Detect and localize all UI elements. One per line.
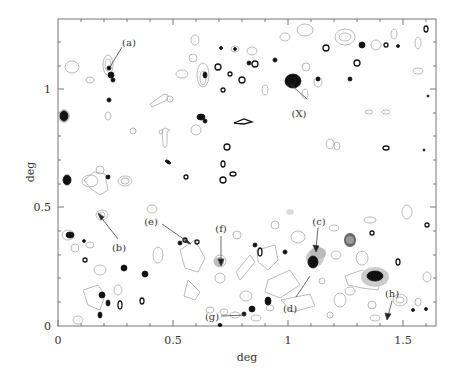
annotation-label-d: (d) [283, 303, 297, 314]
contour-figure: 0 0.5 1 1.5 0 0.5 1 deg deg [0, 0, 459, 377]
y-tick-1: 1 [44, 83, 51, 96]
x-tick-1: 1 [285, 334, 292, 347]
annotation-label-c: (c) [312, 216, 326, 227]
annotation-label-a: (a) [122, 37, 136, 48]
annotation-label-h: (h) [385, 288, 399, 299]
x-tick-0: 0 [55, 334, 62, 347]
x-axis-label: deg [237, 351, 258, 364]
x-tick-1.5: 1.5 [394, 334, 412, 347]
y-tick-0.5: 0.5 [34, 201, 52, 214]
y-tick-0: 0 [44, 320, 51, 333]
y-axis-label: deg [24, 162, 37, 183]
annotation-label-f: (f) [215, 223, 227, 234]
annotation-label-b: (b) [112, 242, 126, 253]
x-tick-0.5: 0.5 [164, 334, 182, 347]
annotation-label-e: (e) [144, 216, 158, 227]
annotation-label-x: (X) [292, 108, 307, 119]
annotation-label-g: (g) [205, 311, 219, 322]
